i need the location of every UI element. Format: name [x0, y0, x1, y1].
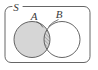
venn-diagram-figure: S A B — [0, 0, 98, 70]
universal-set-label: S — [13, 1, 19, 13]
set-a-label: A — [30, 10, 38, 22]
venn-diagram-canvas: S A B — [0, 0, 98, 70]
set-b-leader-line — [49, 20, 59, 27]
set-b-label: B — [56, 8, 63, 20]
